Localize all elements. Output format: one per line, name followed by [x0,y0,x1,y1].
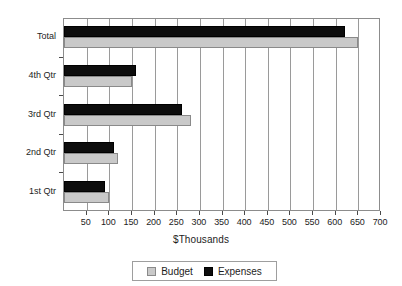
x-tick-label: 550 [305,217,320,227]
chart-legend: Budget Expenses [132,261,277,281]
bar-expenses [64,65,136,76]
bar-chart: 5010015020025030035040045050055060065070… [0,0,402,286]
x-tick-label: 600 [327,217,342,227]
y-tick-mark [59,57,63,58]
bar-expenses [64,142,114,153]
bar-budget [64,192,109,203]
x-tick-label: 400 [237,217,252,227]
legend-label-expenses: Expenses [218,266,262,277]
y-tick-label: 2nd Qtr [0,147,56,157]
x-tick-label: 350 [214,217,229,227]
legend-item-budget: Budget [147,266,193,277]
x-tick-mark [312,211,313,215]
bar-budget [64,115,191,126]
y-tick-mark [59,134,63,135]
x-tick-mark [199,211,200,215]
x-tick-label: 500 [282,217,297,227]
x-tick-mark [131,211,132,215]
gridline [358,19,359,210]
x-tick-label: 300 [191,217,206,227]
bar-budget [64,76,132,87]
y-tick-label: Total [0,31,56,41]
x-tick-mark [176,211,177,215]
bar-expenses [64,181,105,192]
x-tick-label: 250 [169,217,184,227]
bar-expenses [64,104,182,115]
x-tick-label: 150 [124,217,139,227]
bar-expenses [64,26,345,37]
x-tick-mark [154,211,155,215]
bar-budget [64,37,358,48]
plot-area [63,18,380,211]
x-tick-mark [86,211,87,215]
x-tick-mark [335,211,336,215]
y-tick-label: 1st Qtr [0,186,56,196]
legend-swatch-budget-icon [147,267,156,276]
legend-swatch-expenses-icon [204,267,213,276]
legend-label-budget: Budget [161,266,193,277]
x-tick-mark [357,211,358,215]
x-tick-label: 650 [350,217,365,227]
y-tick-label: 3rd Qtr [0,109,56,119]
x-tick-label: 100 [101,217,116,227]
x-tick-mark [108,211,109,215]
x-tick-mark [289,211,290,215]
x-tick-mark [222,211,223,215]
x-tick-label: 450 [259,217,274,227]
x-tick-mark [380,211,381,215]
bar-budget [64,153,118,164]
x-tick-label: 700 [373,217,388,227]
x-axis-title: $Thousands [0,234,402,245]
x-tick-mark [244,211,245,215]
x-tick-label: 50 [81,217,91,227]
y-tick-mark [59,172,63,173]
x-tick-mark [267,211,268,215]
y-tick-mark [59,95,63,96]
y-tick-label: 4th Qtr [0,70,56,80]
x-tick-label: 200 [146,217,161,227]
legend-item-expenses: Expenses [204,266,262,277]
